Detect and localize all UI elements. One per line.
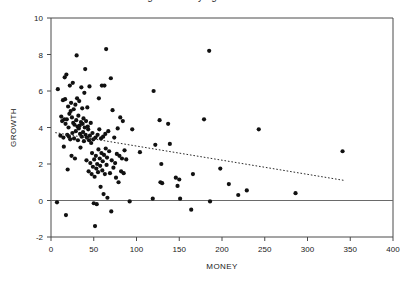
- scatter-point: [66, 104, 70, 108]
- plot-canvas: 050100150200250300350400 -20246810 MONEY…: [0, 0, 412, 289]
- scatter-point: [68, 137, 72, 141]
- scatter-point: [109, 209, 113, 213]
- scatter-point: [61, 135, 65, 139]
- scatter-point: [80, 106, 84, 110]
- scatter-point: [86, 127, 90, 131]
- scatter-point: [95, 133, 99, 137]
- x-tick-label: 300: [301, 245, 315, 254]
- scatter-point: [122, 148, 126, 152]
- x-tick-label: 100: [130, 245, 144, 254]
- scatter-point: [64, 213, 68, 217]
- scatter-point: [70, 115, 74, 119]
- scatter-point: [227, 182, 231, 186]
- scatter-point: [116, 180, 120, 184]
- scatter-plot-figure: Figure: Money against Growth 05010015020…: [0, 0, 412, 289]
- scatter-point: [84, 158, 88, 162]
- scatter-point: [104, 47, 108, 51]
- scatter-point: [69, 101, 73, 105]
- scatter-point: [122, 171, 126, 175]
- scatter-point: [128, 199, 132, 203]
- scatter-point: [87, 84, 91, 88]
- scatter-point: [110, 108, 114, 112]
- scatter-point: [114, 176, 118, 180]
- scatter-point: [175, 184, 179, 188]
- figure-title-cropped: Figure: Money against Growth: [0, 0, 412, 2]
- scatter-point: [178, 197, 182, 201]
- scatter-point: [152, 89, 156, 93]
- y-tick-label: -2: [36, 233, 44, 242]
- scatter-point: [168, 142, 172, 146]
- x-tick-label: 400: [386, 245, 400, 254]
- scatter-point: [98, 164, 102, 168]
- scatter-point: [94, 154, 98, 158]
- scatter-point: [69, 154, 73, 158]
- x-tick-label: 200: [215, 245, 229, 254]
- scatter-point: [124, 157, 128, 161]
- scatter-point: [113, 161, 117, 165]
- scatter-point: [81, 122, 85, 126]
- scatter-point: [101, 192, 105, 196]
- scatter-point: [76, 114, 80, 118]
- scatter-point: [93, 175, 97, 179]
- scatter-point: [177, 177, 181, 181]
- scatter-point: [55, 200, 59, 204]
- scatter-point: [236, 193, 240, 197]
- scatter-point: [84, 119, 88, 123]
- scatter-point: [103, 172, 107, 176]
- scatter-point: [88, 161, 92, 165]
- scatter-point: [94, 166, 98, 170]
- x-tick-label: 250: [258, 245, 272, 254]
- x-axis-ticks: 050100150200250300350400: [49, 237, 400, 254]
- scatter-point: [83, 67, 87, 71]
- plot-frame: [51, 18, 393, 237]
- scatter-point: [71, 81, 75, 85]
- scatter-point: [105, 156, 109, 160]
- scatter-point: [121, 119, 125, 123]
- scatter-point: [63, 97, 67, 101]
- scatter-point: [107, 149, 111, 153]
- scatter-point: [96, 147, 100, 151]
- scatter-point: [109, 76, 113, 80]
- scatter-point: [72, 136, 76, 140]
- scatter-point: [62, 145, 66, 149]
- scatter-point: [160, 181, 164, 185]
- scatter-point: [93, 224, 97, 228]
- scatter-point: [245, 188, 249, 192]
- y-axis-title: GROWTH: [9, 108, 18, 147]
- scatter-point: [79, 85, 83, 89]
- scatter-point: [257, 127, 261, 131]
- scatter-point: [111, 166, 115, 170]
- scatter-point: [293, 191, 297, 195]
- x-tick-label: 50: [89, 245, 98, 254]
- scatter-point: [218, 166, 222, 170]
- scatter-point: [166, 122, 170, 126]
- scatter-point: [138, 150, 142, 154]
- scatter-point: [104, 163, 108, 167]
- scatter-point: [74, 118, 78, 122]
- scatter-point: [75, 53, 79, 57]
- scatter-point: [73, 156, 77, 160]
- scatter-point: [90, 151, 94, 155]
- scatter-point: [120, 156, 124, 160]
- scatter-point: [76, 138, 80, 142]
- scatter-point: [89, 121, 93, 125]
- scatter-point: [78, 145, 82, 149]
- scatter-point: [116, 126, 120, 130]
- scatter-point: [73, 103, 77, 107]
- scatter-point: [153, 143, 157, 147]
- y-tick-label: 2: [39, 160, 44, 169]
- scatter-point: [96, 170, 100, 174]
- scatter-point: [104, 146, 108, 150]
- scatter-point: [151, 197, 155, 201]
- scatter-point: [207, 49, 211, 53]
- scatter-point: [85, 105, 89, 109]
- scatter-point: [340, 149, 344, 153]
- scatter-point: [101, 159, 105, 163]
- scatter-point: [82, 91, 86, 95]
- scatter-point: [90, 131, 94, 135]
- scatter-point: [108, 171, 112, 175]
- y-tick-label: 8: [39, 51, 44, 60]
- scatter-point: [72, 107, 76, 111]
- x-tick-label: 150: [173, 245, 187, 254]
- x-tick-label: 0: [49, 245, 54, 254]
